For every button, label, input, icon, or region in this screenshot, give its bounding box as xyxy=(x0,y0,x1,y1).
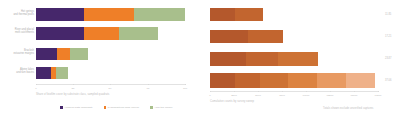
stacked-bar-row-1 xyxy=(36,27,158,40)
x-axis-tick xyxy=(185,84,186,85)
x-axis-tick xyxy=(282,91,283,92)
x-axis-tick xyxy=(110,84,111,85)
legend-item-cyanobacterial[interactable]: Cyanobacterial films (mixed) xyxy=(104,106,140,109)
bar-segment-archaeal xyxy=(36,48,57,60)
bar-segment xyxy=(317,73,345,88)
right-chart-note: Totals shown exclude unverified captures xyxy=(323,107,374,110)
bar-segment xyxy=(210,8,235,21)
x-axis-line xyxy=(36,84,186,85)
bar-value-label: 37.06 xyxy=(385,79,392,82)
x-axis-tick-label: 100 xyxy=(183,87,187,90)
x-axis-tick-label: 0 xyxy=(209,94,210,97)
stacked-bar-row-1 xyxy=(210,30,283,43)
bar-segment-cyanobacterial xyxy=(57,48,70,60)
bar-segment-archaeal xyxy=(36,67,51,79)
legend-label: Algal turf (minor) xyxy=(154,106,172,109)
x-axis-tick-label: 15000 xyxy=(351,94,358,97)
right-chart-caption: Cumulative counts by survey sweep xyxy=(210,100,254,103)
x-axis-line xyxy=(210,91,378,92)
bar-segment-algal xyxy=(134,8,185,21)
x-axis-tick xyxy=(354,91,355,92)
bar-segment-cyanobacterial xyxy=(84,27,119,40)
legend-swatch-icon xyxy=(60,106,63,109)
x-axis-tick xyxy=(210,91,211,92)
bar-segment-algal xyxy=(70,48,88,60)
bar-segment-archaeal xyxy=(36,27,84,40)
bar-segment xyxy=(246,52,277,66)
stacked-bar-row-0 xyxy=(210,8,263,21)
bar-segment xyxy=(346,73,375,88)
legend-swatch-icon xyxy=(150,106,153,109)
bar-segment xyxy=(210,73,235,88)
bar-segment xyxy=(235,73,259,88)
left-chart-legend: Archaeal mats (dominant) Cyanobacterial … xyxy=(60,106,182,109)
bar-segment xyxy=(210,30,248,43)
x-axis-tick-label: 50 xyxy=(109,87,112,90)
bar-segment-algal xyxy=(56,67,68,79)
x-axis-tick-label: 5000 xyxy=(255,94,261,97)
bar-value-label: 23.87 xyxy=(385,57,392,60)
right-chart-panel: 11.85 17.21 23.87 37.06 0 2500 5000 7500… xyxy=(205,0,419,118)
x-axis-tick xyxy=(306,91,307,92)
bar-segment xyxy=(235,8,263,21)
left-chart-caption: Share of biofilm cover by substrate clas… xyxy=(36,93,109,96)
stacked-bar-row-3 xyxy=(36,67,68,79)
x-axis-tick-label: 10000 xyxy=(303,94,310,97)
x-axis-tick xyxy=(378,91,379,92)
bar-segment-cyanobacterial xyxy=(84,8,135,21)
stacked-bar-row-3 xyxy=(210,73,375,88)
bar-value-label: 17.21 xyxy=(385,35,392,38)
x-axis-tick xyxy=(258,91,259,92)
bar-segment xyxy=(248,30,283,43)
x-axis-tick xyxy=(330,91,331,92)
x-axis-tick-label: 7500 xyxy=(279,94,285,97)
legend-label: Cyanobacterial films (mixed) xyxy=(108,106,140,109)
x-axis-tick xyxy=(36,84,37,85)
x-axis-tick xyxy=(73,84,74,85)
left-chart-panel: Hot springs and thermal pools River and … xyxy=(0,0,205,118)
bar-value-label: 11.85 xyxy=(385,13,391,16)
legend-swatch-icon xyxy=(104,106,107,109)
x-axis-tick-label: 75 xyxy=(147,87,150,90)
bar-segment xyxy=(288,73,317,88)
x-axis-tick xyxy=(234,91,235,92)
x-axis-tick-label: 2500 xyxy=(231,94,237,97)
x-axis-tick-label: 12500 xyxy=(327,94,334,97)
stacked-bar-row-2 xyxy=(36,48,88,60)
legend-label: Archaeal mats (dominant) xyxy=(64,106,93,109)
bar-segment-algal xyxy=(119,27,158,40)
x-axis-tick-label: 0 xyxy=(35,87,36,90)
x-axis-tick-label: 17500 xyxy=(375,94,382,97)
bar-segment xyxy=(278,52,318,66)
x-axis-tick xyxy=(148,84,149,85)
bar-segment-archaeal xyxy=(36,8,84,21)
bar-segment xyxy=(260,73,288,88)
stacked-bar-row-0 xyxy=(36,8,185,21)
legend-item-algal[interactable]: Algal turf (minor) xyxy=(150,106,172,109)
bar-segment xyxy=(210,52,246,66)
x-axis-tick-label: 25 xyxy=(72,87,75,90)
stacked-bar-row-2 xyxy=(210,52,318,66)
dual-chart-figure: Hot springs and thermal pools River and … xyxy=(0,0,419,118)
legend-item-archaeal[interactable]: Archaeal mats (dominant) xyxy=(60,106,93,109)
